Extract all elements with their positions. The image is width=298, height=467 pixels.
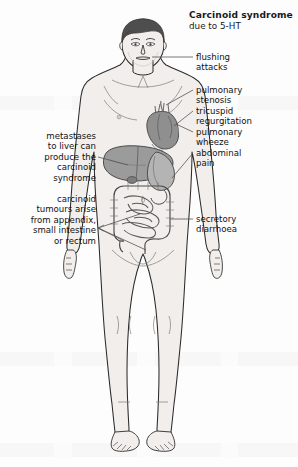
- feet: [111, 431, 175, 451]
- label-line: tumours arise: [2, 204, 96, 214]
- label-line: tricuspid: [196, 106, 296, 116]
- label-line: produce the: [4, 152, 96, 162]
- label-tricuspid-regurgitation: tricuspid regurgitation: [196, 106, 296, 127]
- label-line: from appendix,: [2, 215, 96, 225]
- label-line: flushing: [196, 52, 296, 62]
- label-line: regurgitation: [196, 116, 296, 126]
- label-line: stenosis: [196, 95, 296, 105]
- label-line: secretory: [196, 214, 296, 224]
- label-pulmonary-wheeze: pulmonary wheeze: [196, 127, 296, 148]
- label-line: metastases: [4, 131, 96, 141]
- label-line: pain: [196, 158, 296, 168]
- label-line: small intestine: [2, 225, 96, 235]
- label-liver-metastases: metastases to liver can produce the carc…: [4, 131, 96, 183]
- label-line: pulmonary: [196, 127, 296, 137]
- label-pulmonary-stenosis: pulmonary stenosis: [196, 85, 296, 106]
- label-tumour-origin: carcinoid tumours arise from appendix, s…: [2, 194, 96, 246]
- label-secretory-diarrhoea: secretory diarrhoea: [196, 214, 296, 235]
- label-line: to liver can: [4, 141, 96, 151]
- label-line: abdominal: [196, 148, 296, 158]
- label-line: attacks: [196, 62, 296, 72]
- diagram-title: Carcinoid syndrome: [189, 10, 297, 21]
- label-line: carcinoid: [4, 162, 96, 172]
- label-line: diarrhoea: [196, 224, 296, 234]
- diagram-subtitle: due to 5-HT: [189, 21, 297, 32]
- label-line: wheeze: [196, 137, 296, 147]
- label-flushing-attacks: flushing attacks: [196, 52, 296, 73]
- label-line: or rectum: [2, 236, 96, 246]
- diagram-page: Carcinoid syndrome due to 5-HT flushing …: [0, 0, 298, 467]
- label-line: syndrome: [4, 173, 96, 183]
- label-line: carcinoid: [2, 194, 96, 204]
- label-line: pulmonary: [196, 85, 296, 95]
- label-abdominal-pain: abdominal pain: [196, 148, 296, 169]
